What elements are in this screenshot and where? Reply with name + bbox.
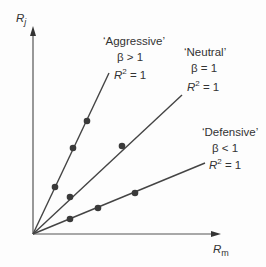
beta-diagram: Rj Rm ‘Aggressive’ β > 1 R2 = 1 ‘Neutral… [0,0,266,267]
y-axis-label: Rj [16,12,27,27]
neutral-title: ‘Neutral’ [184,46,226,58]
defensive-line [33,163,205,234]
defensive-r2: R2 = 1 [209,157,241,171]
diagram-canvas: Rj Rm ‘Aggressive’ β > 1 R2 = 1 ‘Neutral… [0,0,266,267]
defensive-title: ‘Defensive’ [202,126,258,138]
aggressive-beta: β > 1 [117,51,143,63]
neutral-data-point [119,143,126,150]
defensive-data-point [67,216,74,223]
neutral-beta: β = 1 [191,62,217,74]
defensive-data-point [95,205,102,212]
neutral-line [33,95,182,234]
x-axis-label: Rm [213,243,229,258]
aggressive-data-point [84,118,91,125]
aggressive-r2: R2 = 1 [114,67,146,81]
aggressive-data-point [52,184,59,191]
aggressive-data-point [70,145,77,152]
x-axis-arrow-icon [211,231,221,237]
neutral-r2: R2 = 1 [187,79,219,93]
y-axis-arrow-icon [30,26,36,36]
aggressive-title: ‘Aggressive’ [103,35,165,47]
defensive-beta: β < 1 [212,142,238,154]
neutral-data-point [67,194,74,201]
defensive-data-point [132,190,139,197]
regression-lines [33,73,205,234]
